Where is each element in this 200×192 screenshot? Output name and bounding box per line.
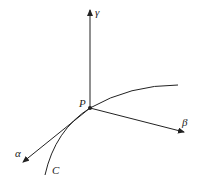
alpha-label: α xyxy=(15,148,21,159)
frame-diagram: γ β α P C xyxy=(0,0,200,192)
curve-label: C xyxy=(52,165,59,176)
beta-axis xyxy=(90,108,184,132)
beta-label: β xyxy=(182,117,187,128)
gamma-label: γ xyxy=(95,7,99,18)
alpha-axis xyxy=(23,108,90,162)
diagram-canvas xyxy=(0,0,200,192)
curve-c xyxy=(45,85,178,175)
point-label: P xyxy=(79,98,86,109)
point-p xyxy=(88,106,92,110)
